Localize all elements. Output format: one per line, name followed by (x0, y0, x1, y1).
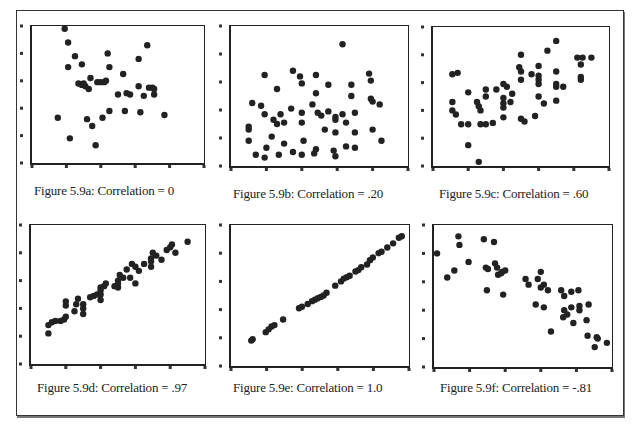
scatter-points-a (32, 26, 204, 163)
x-tick (408, 368, 411, 371)
data-point (325, 82, 331, 88)
x-tick (467, 168, 470, 171)
data-point (65, 39, 71, 45)
x-tick (169, 366, 172, 369)
data-point (97, 297, 103, 303)
scatter-plot-e (229, 224, 410, 368)
data-point (79, 61, 85, 67)
x-tick (371, 168, 374, 171)
scatter-plot-a (30, 25, 205, 165)
data-point (494, 264, 500, 270)
data-point (276, 152, 282, 158)
data-point (281, 119, 287, 125)
data-point (274, 86, 280, 92)
data-point (299, 119, 305, 125)
data-point (532, 113, 538, 119)
data-point (376, 101, 382, 107)
data-point (323, 289, 329, 295)
data-point (290, 68, 296, 74)
scatter-points-e (231, 225, 409, 366)
data-point (75, 295, 81, 301)
data-point (570, 320, 576, 326)
data-point (86, 86, 92, 92)
x-tick (611, 369, 614, 372)
data-point (288, 105, 294, 111)
y-tick (422, 224, 425, 227)
data-point (148, 264, 154, 270)
data-point (538, 284, 544, 290)
data-point (453, 111, 459, 117)
data-point (585, 301, 591, 307)
data-point (67, 135, 73, 141)
data-point (500, 114, 506, 120)
x-tick (407, 168, 410, 171)
y-tick (19, 279, 22, 282)
data-point (481, 236, 487, 242)
x-tick (539, 369, 542, 372)
data-point (299, 110, 305, 116)
data-point (522, 276, 528, 282)
data-point (71, 308, 77, 314)
data-point (250, 336, 256, 342)
y-tick (219, 81, 222, 84)
y-tick (421, 109, 424, 112)
y-tick (422, 337, 425, 340)
data-point (592, 344, 598, 350)
data-point (455, 233, 461, 239)
data-point (65, 64, 71, 70)
data-point (533, 301, 539, 307)
data-point (132, 280, 138, 286)
y-tick (219, 336, 222, 339)
data-point (458, 121, 464, 127)
data-point (158, 257, 164, 263)
data-point (369, 126, 375, 132)
caption-c: Figure 5.9c: Correlation = .60 (439, 186, 588, 202)
x-tick (134, 165, 137, 168)
data-point (454, 70, 460, 76)
data-point (330, 147, 336, 153)
data-point (311, 150, 317, 156)
data-point (604, 340, 610, 346)
data-point (144, 42, 150, 48)
y-tick (20, 107, 23, 110)
data-point (483, 93, 489, 99)
y-tick (19, 251, 22, 254)
x-tick (468, 369, 471, 372)
data-point (507, 99, 513, 105)
data-point (352, 145, 358, 151)
data-point (169, 241, 175, 247)
data-point (339, 41, 345, 47)
data-point (106, 108, 112, 114)
data-point (578, 61, 584, 67)
data-point (45, 330, 51, 336)
x-tick (537, 168, 540, 171)
data-point (271, 322, 277, 328)
scatter-plot-b (229, 25, 409, 168)
data-point (151, 91, 157, 97)
x-tick (99, 165, 102, 168)
data-point (300, 138, 306, 144)
data-point (246, 126, 252, 132)
y-tick (219, 165, 222, 168)
x-tick (608, 168, 611, 171)
data-point (485, 266, 491, 272)
data-point (72, 53, 78, 59)
data-point (290, 149, 296, 155)
x-tick (203, 165, 206, 168)
data-point (153, 252, 159, 258)
data-point (578, 77, 584, 83)
x-tick (134, 366, 137, 369)
data-point (500, 95, 506, 101)
y-tick (219, 25, 222, 28)
data-point (80, 301, 86, 307)
y-tick (219, 224, 222, 227)
data-point (332, 117, 338, 123)
data-point (92, 142, 98, 148)
data-point (99, 115, 105, 121)
data-point (583, 317, 589, 323)
x-tick (168, 165, 171, 168)
data-point (136, 268, 142, 274)
data-point (313, 72, 319, 78)
data-point (491, 239, 497, 245)
data-point (332, 153, 338, 159)
